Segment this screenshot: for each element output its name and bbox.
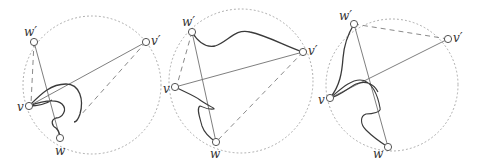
vertex-w-prime: [30, 38, 37, 45]
dashed-edge-vprime-w: [219, 52, 303, 139]
label-w: w: [373, 147, 384, 161]
label-v-prime: v′: [151, 34, 161, 48]
label-v-prime: v′: [308, 44, 318, 58]
curve: [192, 31, 303, 52]
vertex-v-prime: [142, 38, 149, 45]
vertex-v-prime: [444, 35, 451, 42]
label-v: v: [318, 93, 325, 107]
vertex-v: [25, 102, 32, 109]
vertex-w-prime: [188, 28, 195, 35]
dashed-edge-wprime-vprime: [354, 24, 448, 39]
vertex-w: [56, 134, 63, 141]
panel-3: w′ v′ v w: [318, 9, 463, 161]
label-w-prime: w′: [24, 25, 37, 39]
dashed-edge-wprime-v: [31, 42, 34, 104]
label-v-prime: v′: [453, 31, 463, 45]
dashed-edge-wprime-v: [177, 32, 192, 85]
vertex-v: [326, 94, 333, 101]
dashed-edge-vprime-w: [80, 42, 146, 116]
figure: w′ v′ v w w′ v′ v w w′ v′ v w: [0, 0, 479, 164]
panel-2: w′ v′ v w: [163, 9, 318, 161]
label-w-prime: w′: [182, 15, 195, 29]
curve-loop: [330, 80, 388, 147]
vertex-w: [384, 143, 391, 150]
dotted-circle: [23, 16, 161, 154]
vertex-v: [171, 83, 178, 90]
label-v: v: [17, 100, 24, 114]
vertex-w: [212, 138, 219, 145]
label-v: v: [163, 82, 170, 96]
panel-1: w′ v′ v w: [17, 16, 161, 158]
edge-wprime-w: [192, 32, 216, 142]
label-w: w: [55, 144, 66, 158]
diagram-canvas: w′ v′ v w w′ v′ v w w′ v′ v w: [0, 0, 479, 164]
edge-v-vprime: [175, 52, 303, 87]
label-w-prime: w′: [339, 9, 352, 23]
label-w: w: [210, 147, 221, 161]
vertex-v-prime: [299, 48, 306, 55]
edge-v-vprime: [29, 42, 146, 106]
